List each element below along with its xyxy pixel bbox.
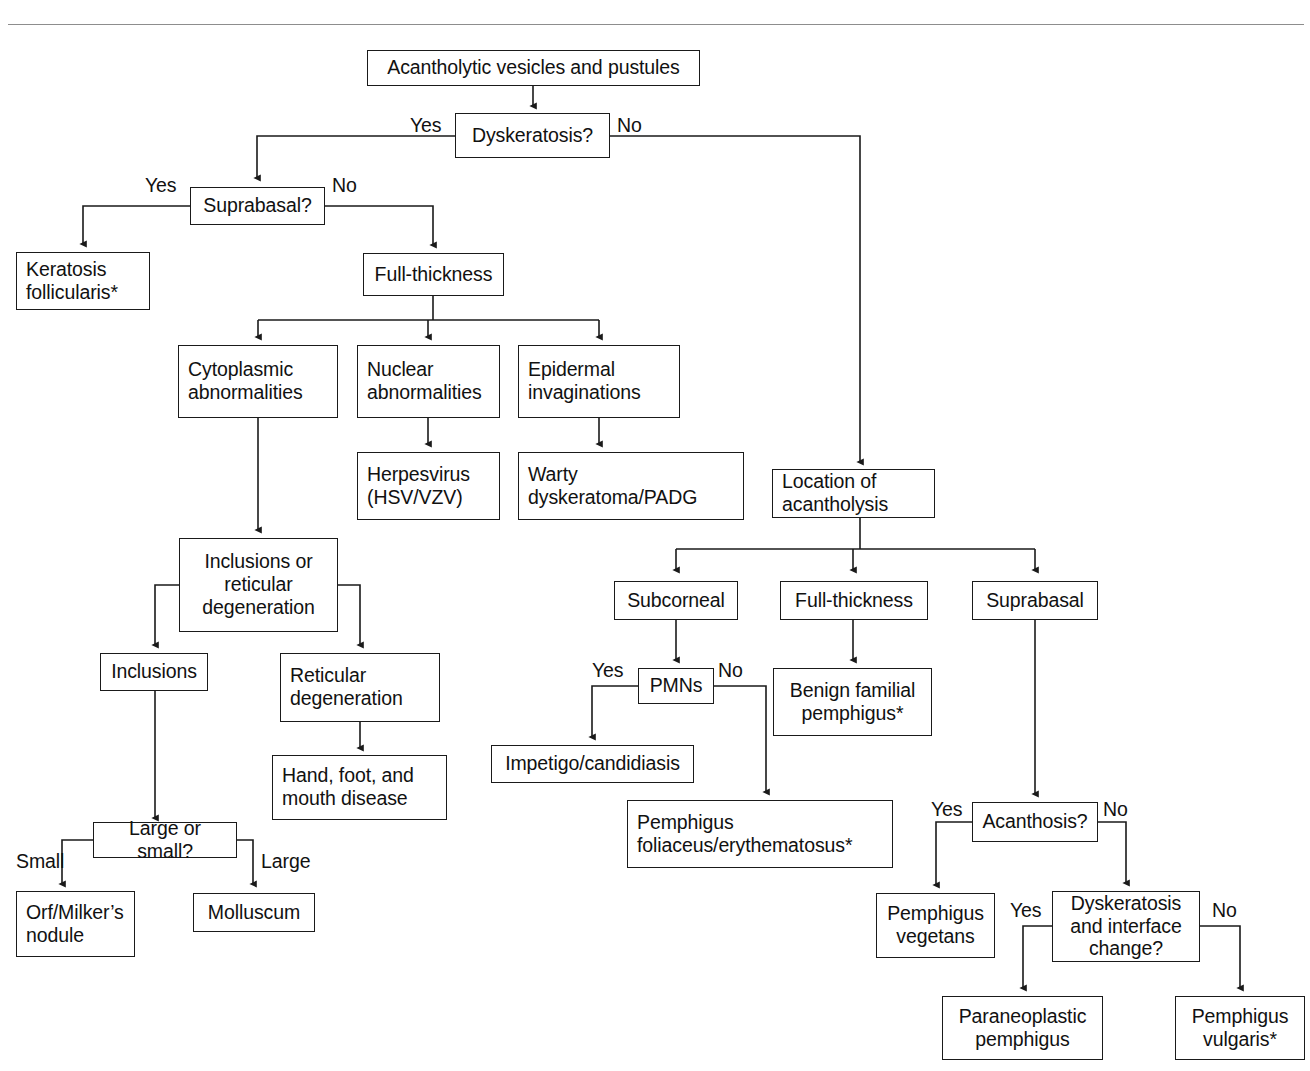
edge-label-suprabasal-yes: Yes	[145, 176, 177, 196]
node-pemphigus-vulgaris: Pemphigus vulgaris*	[1175, 996, 1305, 1060]
node-nuclear-abnormalities-label: Nuclear abnormalities	[367, 358, 482, 404]
node-location-of-acantholysis-label: Location of acantholysis	[782, 470, 888, 516]
top-divider-rule	[8, 24, 1304, 25]
node-paraneoplastic-pemphigus-label: Paraneoplastic pemphigus	[959, 1005, 1087, 1051]
edge-label-suprabasal-no: No	[332, 176, 357, 196]
node-dyskeratosis-label: Dyskeratosis?	[472, 124, 593, 147]
node-suprabasal-question-label: Suprabasal?	[203, 194, 311, 217]
node-inclusions: Inclusions	[100, 653, 208, 691]
node-benign-familial-pemphigus-label: Benign familial pemphigus*	[790, 679, 915, 725]
node-large-or-small-label: Large or small?	[103, 817, 227, 863]
edge-label-pmns-yes: Yes	[592, 661, 624, 681]
node-inclusions-or-reticular-label: Inclusions or reticular degeneration	[202, 550, 315, 618]
edge-label-acanthosis-no: No	[1103, 800, 1128, 820]
node-pemphigus-vulgaris-label: Pemphigus vulgaris*	[1192, 1005, 1289, 1051]
node-root-label: Acantholytic vesicles and pustules	[387, 56, 680, 79]
node-herpesvirus-label: Herpesvirus (HSV/VZV)	[367, 463, 470, 509]
edge-label-pmns-no: No	[718, 661, 743, 681]
node-pemphigus-foliaceus-label: Pemphigus foliaceus/erythematosus*	[637, 811, 852, 857]
node-benign-familial-pemphigus: Benign familial pemphigus*	[773, 668, 932, 736]
edge-label-size-small: Small	[16, 852, 64, 872]
node-dyskeratosis-and-interface-label: Dyskeratosis and interface change?	[1070, 892, 1181, 960]
node-dyskeratosis: Dyskeratosis?	[455, 113, 610, 158]
node-large-or-small: Large or small?	[93, 822, 237, 858]
node-dyskeratosis-and-interface: Dyskeratosis and interface change?	[1052, 891, 1200, 962]
node-reticular-degeneration-label: Reticular degeneration	[290, 664, 403, 710]
node-reticular-degeneration: Reticular degeneration	[280, 653, 440, 722]
node-epidermal-invaginations-label: Epidermal invaginations	[528, 358, 641, 404]
node-pemphigus-vegetans: Pemphigus vegetans	[876, 893, 995, 958]
node-subcorneal-label: Subcorneal	[627, 589, 725, 612]
edge-label-interface-no: No	[1212, 901, 1237, 921]
edge-label-dyskeratosis-no: No	[617, 116, 642, 136]
node-impetigo-candidiasis: Impetigo/candidiasis	[491, 745, 694, 783]
node-suprabasal: Suprabasal	[972, 581, 1098, 620]
node-orf-milkers-nodule: Orf/Milker’s nodule	[16, 891, 135, 957]
node-keratosis-follicularis: Keratosis follicularis*	[16, 252, 150, 310]
node-cytoplasmic-abnormalities: Cytoplasmic abnormalities	[178, 345, 338, 418]
node-root: Acantholytic vesicles and pustules	[367, 50, 700, 86]
edge-label-size-large: Large	[261, 852, 310, 872]
node-hand-foot-mouth-disease: Hand, foot, and mouth disease	[272, 755, 447, 820]
node-inclusions-or-reticular: Inclusions or reticular degeneration	[179, 538, 338, 632]
node-orf-milkers-nodule-label: Orf/Milker’s nodule	[26, 901, 124, 947]
node-nuclear-abnormalities: Nuclear abnormalities	[357, 345, 500, 418]
node-location-of-acantholysis: Location of acantholysis	[772, 469, 935, 518]
node-full-thickness-right: Full-thickness	[780, 581, 928, 620]
node-pmns: PMNs	[638, 668, 714, 704]
node-molluscum-label: Molluscum	[208, 901, 300, 924]
node-paraneoplastic-pemphigus: Paraneoplastic pemphigus	[942, 996, 1103, 1060]
node-warty-dyskeratoma: Warty dyskeratoma/PADG	[518, 452, 744, 520]
node-suprabasal-question: Suprabasal?	[190, 187, 325, 225]
node-hand-foot-mouth-disease-label: Hand, foot, and mouth disease	[282, 764, 414, 810]
node-full-thickness-left-label: Full-thickness	[375, 263, 493, 286]
node-subcorneal: Subcorneal	[614, 581, 738, 620]
flowchart-figure: Acantholytic vesicles and pustules Dyske…	[0, 0, 1310, 1071]
node-full-thickness-left: Full-thickness	[363, 253, 504, 296]
node-acanthosis: Acanthosis?	[972, 802, 1098, 842]
node-herpesvirus: Herpesvirus (HSV/VZV)	[357, 452, 500, 520]
node-keratosis-follicularis-label: Keratosis follicularis*	[26, 258, 118, 304]
node-warty-dyskeratoma-label: Warty dyskeratoma/PADG	[528, 463, 697, 509]
node-cytoplasmic-abnormalities-label: Cytoplasmic abnormalities	[188, 358, 303, 404]
edge-label-acanthosis-yes: Yes	[931, 800, 963, 820]
edge-label-dyskeratosis-yes: Yes	[410, 116, 442, 136]
node-pemphigus-foliaceus: Pemphigus foliaceus/erythematosus*	[627, 800, 893, 868]
node-acanthosis-label: Acanthosis?	[982, 810, 1087, 833]
node-full-thickness-right-label: Full-thickness	[795, 589, 913, 612]
node-pemphigus-vegetans-label: Pemphigus vegetans	[887, 902, 984, 948]
edge-label-interface-yes: Yes	[1010, 901, 1042, 921]
node-impetigo-candidiasis-label: Impetigo/candidiasis	[505, 752, 680, 775]
node-pmns-label: PMNs	[650, 674, 703, 697]
node-suprabasal-label: Suprabasal	[986, 589, 1084, 612]
node-molluscum: Molluscum	[193, 893, 315, 932]
node-inclusions-label: Inclusions	[111, 660, 197, 683]
node-epidermal-invaginations: Epidermal invaginations	[518, 345, 680, 418]
